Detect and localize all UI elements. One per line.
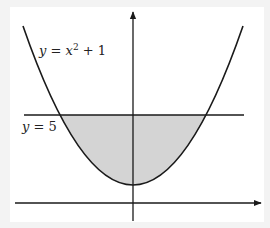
parabola-diagram: y = x2 + 1 y = 5 xyxy=(0,0,270,228)
curve-label: y = x2 + 1 xyxy=(38,42,106,58)
line-label: y = 5 xyxy=(21,119,57,134)
